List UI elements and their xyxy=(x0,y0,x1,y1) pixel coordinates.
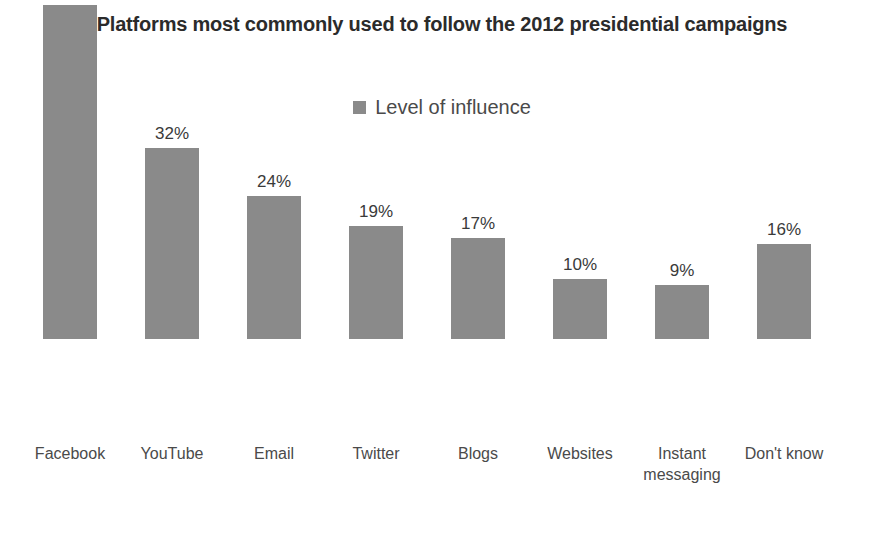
bar-value-label: 24% xyxy=(257,172,291,192)
category-label: Facebook xyxy=(19,443,121,464)
category-label: Instant messaging xyxy=(631,443,733,485)
bar-value-label: 9% xyxy=(670,261,695,281)
bar-group: 19% xyxy=(325,202,427,339)
bar-group: 56% xyxy=(19,0,121,339)
bar-value-label: 10% xyxy=(563,255,597,275)
bar-value-label: 32% xyxy=(155,124,189,144)
plot-area: 56%32%24%19%17%10%9%16% xyxy=(0,0,884,437)
category-label: YouTube xyxy=(121,443,223,464)
bar-group: 9% xyxy=(631,261,733,339)
bar[interactable] xyxy=(451,238,505,339)
category-label: Websites xyxy=(529,443,631,464)
bar-group: 24% xyxy=(223,172,325,339)
bar-group: 10% xyxy=(529,255,631,339)
bar-group: 16% xyxy=(733,220,835,339)
bar-chart: Platforms most commonly used to follow t… xyxy=(0,0,884,535)
bar[interactable] xyxy=(553,279,607,339)
bar[interactable] xyxy=(757,244,811,339)
bar-group: 32% xyxy=(121,124,223,339)
category-label: Blogs xyxy=(427,443,529,464)
category-label: Twitter xyxy=(325,443,427,464)
bar[interactable] xyxy=(247,196,301,339)
bar[interactable] xyxy=(145,148,199,339)
bar[interactable] xyxy=(349,226,403,339)
bar[interactable] xyxy=(655,285,709,339)
bar-value-label: 17% xyxy=(461,214,495,234)
category-label: Don't know xyxy=(733,443,835,464)
category-label: Email xyxy=(223,443,325,464)
bar[interactable] xyxy=(43,5,97,339)
bar-value-label: 16% xyxy=(767,220,801,240)
bar-group: 17% xyxy=(427,214,529,339)
bar-value-label: 19% xyxy=(359,202,393,222)
bar-value-label: 56% xyxy=(53,0,87,1)
